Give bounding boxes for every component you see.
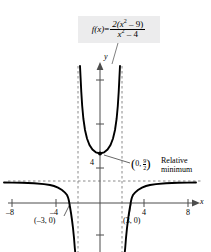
x-tick-label-4: 4: [142, 208, 146, 217]
x-axis-label: x: [200, 197, 204, 206]
label-relative-minimum-text: Relative minimum: [161, 156, 192, 174]
callout-leader-line: [112, 43, 118, 64]
y-tick-label-4: 4: [90, 158, 94, 167]
relative-minimum-line1: Relative: [161, 156, 192, 165]
x-tick-label--8: –8: [6, 208, 14, 217]
label-relative-minimum-point: (0, 92): [131, 158, 151, 171]
x-tick-label-8: 8: [186, 208, 190, 217]
label-x-intercept-right: (3, 0): [123, 216, 140, 225]
relative-minimum-marker: [98, 152, 102, 156]
x-axis-arrow: [192, 200, 200, 207]
relative-minimum-line2: minimum: [161, 165, 192, 174]
left-intercept-leader-line: [64, 204, 70, 216]
y-axis-label: y: [104, 52, 108, 61]
minimum-leader-line: [104, 155, 130, 163]
y-axis-arrow: [97, 62, 104, 70]
rational-function-figure: f(x)=2(x2 – 9)x2 – 4: [0, 0, 211, 252]
min-x-value: 0,: [135, 159, 143, 168]
label-x-intercept-left: (–3, 0): [34, 216, 55, 225]
function-plot: [0, 0, 211, 252]
min-paren-close: ): [146, 156, 150, 171]
